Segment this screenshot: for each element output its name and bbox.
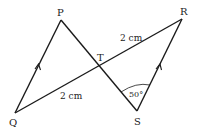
label-s: S bbox=[134, 116, 141, 127]
segment-qp bbox=[15, 20, 61, 113]
segment-qr bbox=[15, 19, 182, 113]
label-t: T bbox=[97, 52, 104, 63]
label-r: R bbox=[180, 6, 188, 17]
geometry-diagram: P R Q S T 2 cm 2 cm 50° bbox=[0, 0, 197, 135]
angle-label-s: 50° bbox=[129, 90, 143, 99]
label-q: Q bbox=[9, 117, 17, 128]
label-p: P bbox=[57, 7, 64, 18]
measurement-tr: 2 cm bbox=[120, 33, 143, 43]
measurement-qt: 2 cm bbox=[60, 91, 83, 101]
